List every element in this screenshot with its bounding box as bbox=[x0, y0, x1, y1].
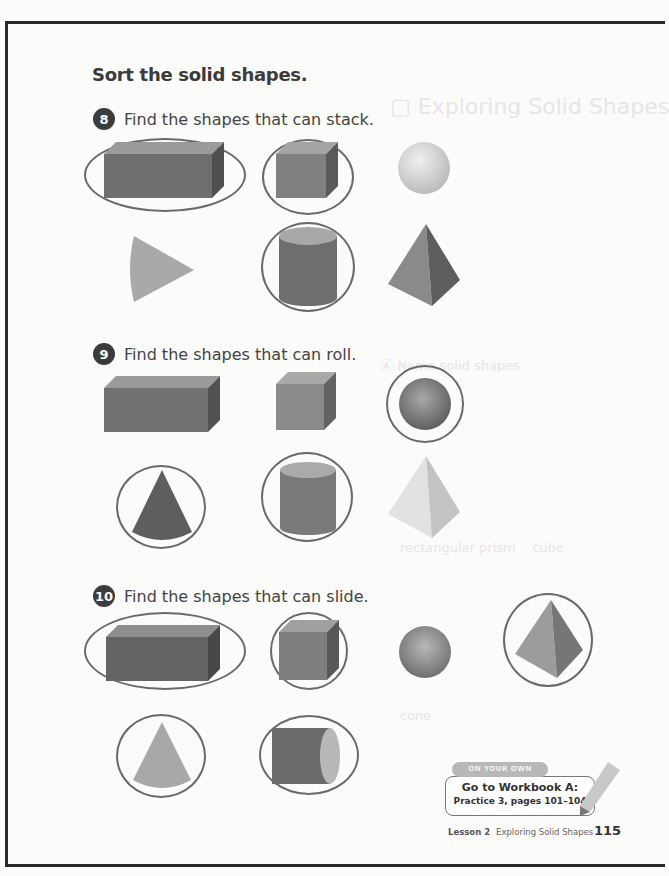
cube-shape bbox=[276, 142, 338, 198]
question-number-badge: 8 bbox=[93, 108, 115, 130]
cylinder-on-side-shape bbox=[272, 728, 342, 784]
question-10: 10 Find the shapes that can slide. bbox=[93, 585, 369, 607]
cone-shape bbox=[132, 470, 192, 544]
show-through-text: cone bbox=[400, 708, 431, 723]
pyramid-shape bbox=[515, 600, 583, 680]
page-number: 115 bbox=[594, 823, 621, 838]
rectangular-prism-shape bbox=[106, 625, 220, 681]
show-through-text: Ⓐ Name solid shapes bbox=[380, 355, 520, 374]
question-prompt: Find the shapes that can stack. bbox=[124, 110, 374, 129]
lesson-label: Lesson 2 bbox=[448, 827, 490, 837]
sphere-shape bbox=[398, 377, 452, 431]
sphere-shape bbox=[398, 625, 452, 679]
workbook-reference-line1: Go to Workbook A: bbox=[446, 781, 594, 794]
question-9: 9 Find the shapes that can roll. bbox=[93, 343, 356, 365]
page-heading: Sort the solid shapes. bbox=[92, 64, 307, 85]
sphere-shape bbox=[396, 140, 452, 196]
question-number-badge: 9 bbox=[93, 343, 115, 365]
workbook-reference-box: Go to Workbook A: Practice 3, pages 101–… bbox=[445, 776, 595, 816]
pencil-icon bbox=[578, 762, 620, 818]
question-prompt: Find the shapes that can slide. bbox=[124, 587, 369, 606]
question-8: 8 Find the shapes that can stack. bbox=[93, 108, 374, 130]
show-through-text: ▢ Exploring Solid Shapes bbox=[390, 94, 669, 119]
on-your-own-tab: ON YOUR OWN bbox=[452, 762, 548, 777]
cube-shape bbox=[279, 620, 339, 682]
cylinder-shape bbox=[280, 462, 336, 536]
pyramid-shape bbox=[388, 456, 460, 540]
question-prompt: Find the shapes that can roll. bbox=[124, 345, 356, 364]
cube-shape bbox=[276, 372, 336, 430]
lesson-title: Exploring Solid Shapes bbox=[496, 827, 593, 837]
workbook-reference-line2: Practice 3, pages 101–104 bbox=[446, 796, 594, 806]
cylinder-shape bbox=[279, 226, 337, 308]
question-number-badge: 10 bbox=[93, 585, 115, 607]
cone-shape bbox=[126, 236, 196, 304]
pyramid-shape bbox=[388, 224, 460, 308]
cone-shape bbox=[133, 722, 191, 792]
rectangular-prism-shape bbox=[104, 376, 220, 432]
rectangular-prism-shape bbox=[104, 142, 224, 200]
show-through-text: rectangular prism cube bbox=[400, 540, 564, 555]
page-footer: Lesson 2 Exploring Solid Shapes bbox=[448, 827, 593, 837]
